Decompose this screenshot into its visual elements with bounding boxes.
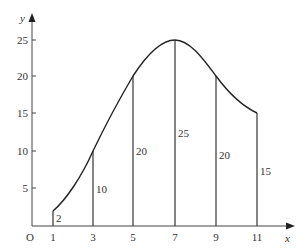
x-tick-label: 5 xyxy=(130,231,136,243)
ordinate-label: 25 xyxy=(178,127,190,139)
y-tick-label: 15 xyxy=(17,107,29,119)
y-tick-label: 25 xyxy=(17,34,29,46)
x-ticks: 1 3 5 7 9 11 xyxy=(50,231,262,243)
ordinates xyxy=(53,40,257,226)
x-axis-label: x xyxy=(284,232,290,244)
curve xyxy=(53,40,257,211)
y-axis-arrow-icon xyxy=(29,13,36,22)
ordinate-label: 20 xyxy=(136,145,148,157)
x-tick-label: 9 xyxy=(213,231,219,243)
ordinate-label: 15 xyxy=(260,165,272,177)
x-tick-label: 7 xyxy=(172,231,178,243)
y-tick-label: 10 xyxy=(17,145,29,157)
ordinate-label: 20 xyxy=(219,149,231,161)
x-axis-arrow-icon xyxy=(286,223,295,230)
x-tick-label: 3 xyxy=(90,231,96,243)
y-tick-label: 20 xyxy=(17,70,29,82)
y-tick-label: 5 xyxy=(23,182,29,194)
ordinate-label: 2 xyxy=(56,212,62,224)
x-tick-label: 1 xyxy=(50,231,56,243)
y-ticks: 5 10 15 20 25 xyxy=(17,34,36,194)
chart: y x O 5 10 15 20 25 1 3 5 7 9 11 2 10 20… xyxy=(0,0,308,250)
x-tick-label: 11 xyxy=(252,231,263,243)
y-axis-label: y xyxy=(19,12,25,24)
origin-label: O xyxy=(26,231,34,243)
ordinate-label: 10 xyxy=(96,183,108,195)
